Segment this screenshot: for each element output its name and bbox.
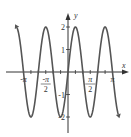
svg-text:-π: -π xyxy=(20,75,28,84)
y-tick-label: 1 xyxy=(61,46,65,55)
y-tick-label: 2 xyxy=(61,23,65,32)
svg-text:2: 2 xyxy=(44,85,48,94)
x-axis-label: x xyxy=(121,61,126,70)
svg-text:2: 2 xyxy=(88,85,92,94)
y-axis-arrow-icon xyxy=(66,13,71,20)
svg-text:π: π xyxy=(110,75,115,84)
x-tick-label: -π2 xyxy=(41,75,51,94)
svg-text:-π: -π xyxy=(42,75,50,84)
y-axis-label: y xyxy=(73,11,78,20)
y-tick-label: -1 xyxy=(58,91,65,100)
x-tick-label: π2 xyxy=(85,75,95,94)
y-tick-label: -2 xyxy=(58,113,65,122)
x-tick-label: -π xyxy=(20,75,28,84)
x-axis-arrow-icon xyxy=(122,70,129,75)
sine-graph: y x 21-1-2-π-π2π2π xyxy=(0,0,131,137)
x-tick-label: π xyxy=(110,75,115,84)
svg-text:π: π xyxy=(88,75,93,84)
